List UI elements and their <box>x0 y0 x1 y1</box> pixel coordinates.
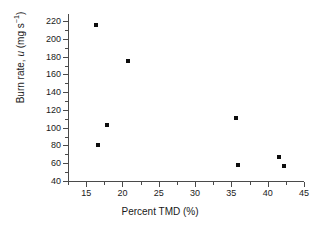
x-axis-title: Percent TMD (%) <box>0 206 320 217</box>
y-minor-tick-110 <box>65 119 68 120</box>
y-tick-120 <box>63 110 68 111</box>
y-minor-tick-50 <box>65 172 68 173</box>
x-minor-tick-32.5 <box>213 182 214 185</box>
data-point <box>282 164 286 168</box>
x-tick-25 <box>159 182 160 187</box>
x-tick-40 <box>268 182 269 187</box>
y-minor-tick-130 <box>65 101 68 102</box>
data-point <box>277 155 281 159</box>
data-point <box>126 59 130 63</box>
x-tick-label-30: 30 <box>190 189 200 198</box>
y-axis-title: Burn rate, u (mg s−1) <box>15 0 26 148</box>
x-tick-45 <box>304 182 305 187</box>
y-axis-variable: u <box>15 51 26 57</box>
y-minor-tick-210 <box>65 30 68 31</box>
y-tick-label-60: 60 <box>51 159 61 168</box>
y-tick-label-180: 180 <box>46 52 61 61</box>
x-tick-label-35: 35 <box>226 189 236 198</box>
y-tick-60 <box>63 163 68 164</box>
y-tick-label-160: 160 <box>46 70 61 79</box>
y-minor-tick-170 <box>65 66 68 67</box>
x-tick-30 <box>195 182 196 187</box>
y-tick-label-140: 140 <box>46 88 61 97</box>
x-tick-label-45: 45 <box>299 189 309 198</box>
y-tick-160 <box>63 74 68 75</box>
x-tick-15 <box>86 182 87 187</box>
x-tick-20 <box>122 182 123 187</box>
y-tick-label-200: 200 <box>46 34 61 43</box>
y-tick-100 <box>63 128 68 129</box>
x-minor-tick-22.5 <box>141 182 142 185</box>
y-minor-tick-90 <box>65 137 68 138</box>
y-tick-140 <box>63 92 68 93</box>
y-axis-exponent: −1 <box>12 15 21 23</box>
x-minor-tick-12.5 <box>68 182 69 185</box>
x-tick-label-15: 15 <box>81 189 91 198</box>
y-tick-200 <box>63 39 68 40</box>
x-tick-label-25: 25 <box>154 189 164 198</box>
x-minor-tick-37.5 <box>250 182 251 185</box>
y-tick-label-80: 80 <box>51 141 61 150</box>
scatter-plot-figure: 406080100120140160180200220 152025303540… <box>0 0 320 229</box>
x-tick-label-40: 40 <box>263 189 273 198</box>
x-minor-tick-42.5 <box>286 182 287 185</box>
x-minor-tick-17.5 <box>104 182 105 185</box>
data-point <box>94 23 98 27</box>
y-tick-label-40: 40 <box>51 177 61 186</box>
x-tick-35 <box>231 182 232 187</box>
data-point <box>96 143 100 147</box>
y-tick-label-120: 120 <box>46 105 61 114</box>
data-point <box>105 123 109 127</box>
y-minor-tick-150 <box>65 83 68 84</box>
y-tick-220 <box>63 21 68 22</box>
y-minor-tick-190 <box>65 48 68 49</box>
x-tick-label-20: 20 <box>117 189 127 198</box>
data-point <box>234 116 238 120</box>
y-tick-label-100: 100 <box>46 123 61 132</box>
y-tick-80 <box>63 145 68 146</box>
y-axis-line <box>68 14 69 182</box>
plot-area: 406080100120140160180200220 152025303540… <box>68 14 304 182</box>
x-minor-tick-27.5 <box>177 182 178 185</box>
y-tick-label-220: 220 <box>46 17 61 26</box>
data-point <box>236 163 240 167</box>
y-minor-tick-70 <box>65 154 68 155</box>
y-tick-180 <box>63 57 68 58</box>
